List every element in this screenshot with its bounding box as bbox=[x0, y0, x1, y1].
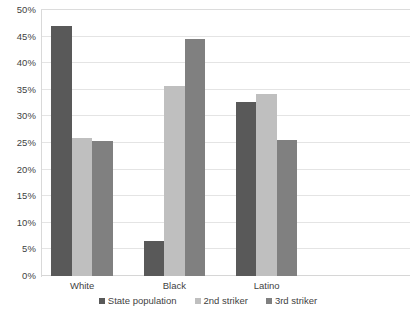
y-axis-tick-label: 10% bbox=[0, 218, 36, 228]
y-axis-labels: 0%5%10%15%20%25%30%35%40%45%50% bbox=[0, 0, 36, 320]
x-axis-tick-label-latino: Latino bbox=[221, 280, 313, 292]
y-axis-tick-label: 50% bbox=[0, 5, 36, 15]
legend-item-series1[interactable]: 2nd striker bbox=[195, 295, 248, 306]
bar-latino-series0 bbox=[236, 102, 257, 276]
y-axis-tick-label: 15% bbox=[0, 191, 36, 201]
bar-black-series0 bbox=[144, 241, 165, 276]
y-axis-line bbox=[41, 10, 42, 277]
y-axis-tick-label: 35% bbox=[0, 85, 36, 95]
bar-black-series1 bbox=[164, 86, 185, 276]
y-axis-tick-label: 30% bbox=[0, 111, 36, 121]
y-axis-tick-label: 25% bbox=[0, 138, 36, 148]
bar-black-series2 bbox=[185, 39, 206, 276]
gridline bbox=[41, 9, 410, 10]
bar-latino-series1 bbox=[256, 94, 277, 276]
bar-chart: 0%5%10%15%20%25%30%35%40%45%50% WhiteBla… bbox=[0, 0, 416, 320]
legend-item-series0[interactable]: State population bbox=[99, 295, 177, 306]
x-axis-labels: WhiteBlackLatino bbox=[41, 280, 410, 294]
plot-area bbox=[41, 10, 410, 276]
gridline bbox=[41, 115, 410, 116]
x-axis-tick-label-white: White bbox=[36, 280, 128, 292]
y-axis-tick-label: 20% bbox=[0, 165, 36, 175]
bar-white-series2 bbox=[92, 141, 113, 276]
legend-swatch-icon bbox=[266, 298, 272, 304]
legend-label: 3rd striker bbox=[275, 295, 317, 306]
y-axis-tick-label: 5% bbox=[0, 244, 36, 254]
bar-white-series0 bbox=[51, 26, 72, 276]
bar-white-series1 bbox=[72, 138, 93, 276]
gridline bbox=[41, 36, 410, 37]
legend-label: 2nd striker bbox=[204, 295, 248, 306]
x-axis-tick-label-black: Black bbox=[128, 280, 220, 292]
gridline bbox=[41, 62, 410, 63]
y-axis-tick-label: 0% bbox=[0, 271, 36, 281]
y-axis-tick-label: 45% bbox=[0, 32, 36, 42]
chart-legend: State population2nd striker3rd striker bbox=[0, 294, 416, 307]
gridline bbox=[41, 89, 410, 90]
legend-label: State population bbox=[108, 295, 177, 306]
legend-swatch-icon bbox=[99, 298, 105, 304]
legend-item-series2[interactable]: 3rd striker bbox=[266, 295, 317, 306]
y-axis-tick-label: 40% bbox=[0, 58, 36, 68]
bar-latino-series2 bbox=[277, 140, 298, 276]
legend-swatch-icon bbox=[195, 298, 201, 304]
figure-caption-clipped bbox=[0, 311, 416, 320]
